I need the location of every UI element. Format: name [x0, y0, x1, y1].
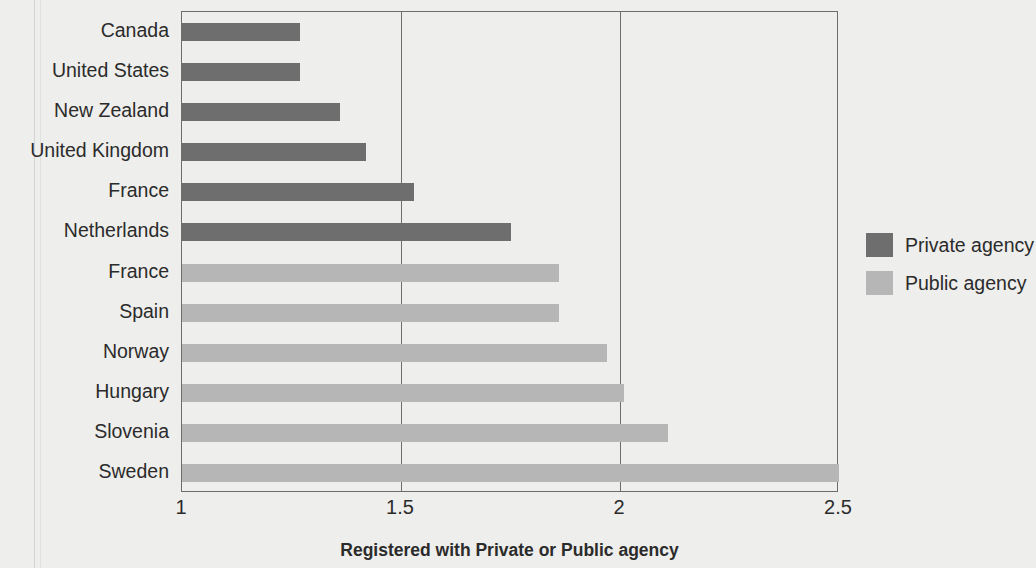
- bar-public-norway: [182, 344, 607, 362]
- bar-chart-figure: CanadaUnited StatesNew ZealandUnited Kin…: [0, 0, 1036, 568]
- category-label: Hungary: [0, 382, 169, 402]
- category-label: United States: [0, 61, 169, 81]
- category-label: Spain: [0, 302, 169, 322]
- legend-item: Public agency: [866, 264, 1036, 302]
- bar-private-united-kingdom: [182, 143, 366, 161]
- category-label: New Zealand: [0, 101, 169, 121]
- x-tick-label: 1: [175, 497, 186, 517]
- chart-legend: Private agencyPublic agency: [866, 226, 1036, 302]
- legend-item: Private agency: [866, 226, 1036, 264]
- x-axis-title: Registered with Private or Public agency: [181, 540, 838, 561]
- bar-public-france: [182, 264, 559, 282]
- bar-private-netherlands: [182, 223, 511, 241]
- legend-label: Public agency: [905, 272, 1026, 295]
- legend-swatch-private: [866, 233, 893, 257]
- bar-public-slovenia: [182, 424, 668, 442]
- category-label: Slovenia: [0, 422, 169, 442]
- bar-public-hungary: [182, 384, 624, 402]
- x-axis-ticks: 11.522.5: [181, 497, 838, 527]
- gridline: [401, 12, 402, 491]
- category-axis-labels: CanadaUnited StatesNew ZealandUnited Kin…: [0, 11, 175, 492]
- legend-label: Private agency: [905, 234, 1034, 257]
- bar-private-france: [182, 183, 414, 201]
- x-tick-label: 1.5: [386, 497, 414, 517]
- bar-private-canada: [182, 23, 300, 41]
- category-label: Canada: [0, 21, 169, 41]
- bar-private-new-zealand: [182, 103, 340, 121]
- x-tick-label: 2: [613, 497, 624, 517]
- category-label: France: [0, 181, 169, 201]
- bar-public-spain: [182, 304, 559, 322]
- category-label: Norway: [0, 342, 169, 362]
- category-label: Sweden: [0, 462, 169, 482]
- gridline: [620, 12, 621, 491]
- bar-public-sweden: [182, 464, 839, 482]
- bar-private-united-states: [182, 63, 300, 81]
- plot-area: [181, 11, 838, 492]
- category-label: United Kingdom: [0, 141, 169, 161]
- category-label: Netherlands: [0, 221, 169, 241]
- category-label: France: [0, 262, 169, 282]
- x-tick-label: 2.5: [824, 497, 852, 517]
- legend-swatch-public: [866, 271, 893, 295]
